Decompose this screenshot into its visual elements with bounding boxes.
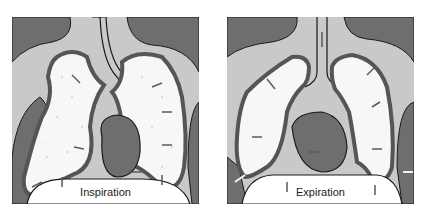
expiration-label: Expiration	[227, 186, 414, 198]
inspiration-panel: Inspiration	[12, 17, 199, 204]
inspiration-diagram	[12, 17, 199, 204]
inspiration-label: Inspiration	[12, 186, 199, 198]
expiration-diagram	[227, 17, 414, 204]
expiration-panel: Expiration	[227, 17, 414, 204]
